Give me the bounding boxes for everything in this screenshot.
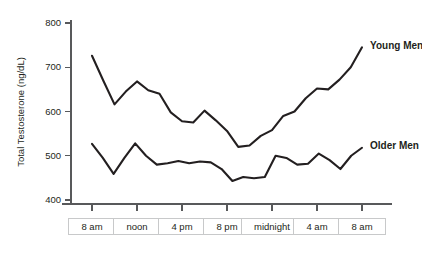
y-tick-label-800: 800 bbox=[45, 17, 61, 28]
y-tick-label-700: 700 bbox=[45, 61, 61, 72]
chart-container: 400500600700800 Total Testosterone (ng/d… bbox=[0, 0, 422, 253]
series-text-labels: Young MenOlder Men bbox=[370, 40, 422, 151]
y-tick-label-500: 500 bbox=[45, 150, 61, 161]
y-tick-label-600: 600 bbox=[45, 106, 61, 117]
x-axis-label-1: noon bbox=[113, 218, 161, 235]
series-line-young-men bbox=[92, 47, 362, 147]
x-axis-label-5: 4 am bbox=[293, 218, 341, 235]
series-lines bbox=[92, 47, 362, 181]
series-line-older-men bbox=[92, 143, 362, 181]
x-axis-label-2: 4 pm bbox=[158, 218, 206, 235]
x-axis-group bbox=[62, 204, 392, 211]
y-tick-label-400: 400 bbox=[45, 194, 61, 205]
series-label-older-men: Older Men bbox=[370, 140, 419, 151]
x-axis-label-0: 8 am bbox=[68, 218, 116, 235]
series-label-young-men: Young Men bbox=[370, 40, 422, 51]
y-axis-title: Total Testosterone (ng/dL) bbox=[15, 57, 26, 167]
x-axis-label-6: 8 am bbox=[338, 218, 386, 235]
x-axis-ticks bbox=[92, 204, 362, 211]
y-axis-tick-labels: 400500600700800 bbox=[45, 17, 61, 205]
y-axis-group: 400500600700800 Total Testosterone (ng/d… bbox=[15, 17, 71, 205]
y-axis-ticks bbox=[65, 23, 71, 200]
testosterone-line-chart: 400500600700800 Total Testosterone (ng/d… bbox=[0, 0, 422, 253]
